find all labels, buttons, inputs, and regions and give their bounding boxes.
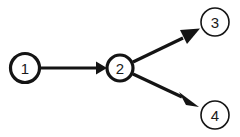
node-3[interactable]: 3: [201, 8, 229, 36]
node-4[interactable]: 4: [201, 101, 229, 129]
graph-diagram: 1 2 3 4: [0, 0, 240, 137]
node-4-label: 4: [211, 107, 219, 124]
node-2[interactable]: 2: [107, 55, 133, 81]
node-2-label: 2: [116, 60, 124, 77]
node-1-label: 1: [21, 60, 29, 77]
node-3-label: 3: [211, 14, 219, 31]
node-1[interactable]: 1: [11, 54, 40, 83]
